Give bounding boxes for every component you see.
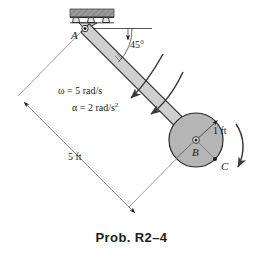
label-angular-acceleration: α = 2 rad/s2 [72,102,118,113]
label-rod-length: 5 ft [68,152,82,162]
support-bearing-feet [70,18,114,23]
pin-joint-a [82,25,88,31]
label-angular-velocity: ω = 5 rad/s [58,86,102,96]
figure-root: A B C 45° ω = 5 rad/s α = 2 rad/s2 1 ft … [0,0,263,260]
label-point-a: A [71,30,78,41]
ceiling-support-block [70,9,114,17]
label-angular-acceleration-exponent: 2 [115,101,119,109]
disk-at-b [169,113,223,167]
dimension-5ft [18,33,191,213]
label-angle-45deg: 45° [130,40,144,50]
label-angular-acceleration-text: α = 2 rad/s [72,102,115,113]
disk-spin-curved-arrow [236,124,243,167]
label-point-c: C [221,161,228,172]
label-disk-radius: 1 ft [213,126,227,136]
label-point-b: B [192,147,199,158]
figure-caption: Prob. R2–4 [0,230,263,245]
point-c-marker [213,157,217,161]
